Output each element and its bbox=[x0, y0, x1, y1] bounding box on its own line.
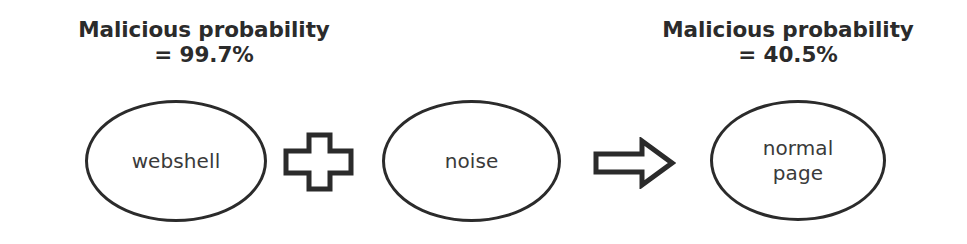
malicious-probability-value-left: = 99.7% bbox=[48, 42, 360, 67]
node-noise-label: noise bbox=[445, 149, 499, 173]
node-normal-page: normal page bbox=[710, 100, 886, 221]
malicious-probability-label-left: Malicious probability = 99.7% bbox=[48, 17, 360, 68]
right-arrow-icon bbox=[592, 137, 676, 189]
malicious-probability-value-right: = 40.5% bbox=[632, 42, 944, 67]
node-webshell: webshell bbox=[85, 100, 267, 222]
node-webshell-label: webshell bbox=[132, 149, 221, 173]
diagram-canvas: Malicious probability = 99.7% Malicious … bbox=[0, 0, 967, 244]
plus-icon bbox=[281, 131, 355, 193]
malicious-probability-title-left: Malicious probability bbox=[48, 17, 360, 42]
malicious-probability-title-right: Malicious probability bbox=[632, 17, 944, 42]
node-noise: noise bbox=[382, 100, 561, 222]
node-normal-page-label: normal page bbox=[763, 136, 834, 185]
malicious-probability-label-right: Malicious probability = 40.5% bbox=[632, 17, 944, 68]
